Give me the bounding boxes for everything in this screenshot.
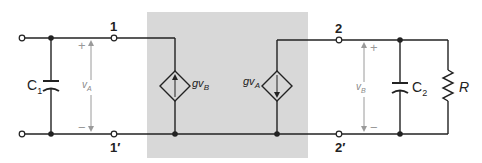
terminal-1-prime (111, 131, 117, 137)
terminal-1 (111, 35, 117, 41)
terminal-2 (336, 37, 342, 43)
resistor-zigzag (443, 70, 453, 101)
terminal-2-label: 2 (335, 22, 342, 35)
circuit-diagram (0, 0, 482, 163)
junction-c2-bottom (397, 131, 403, 137)
terminal-left-bottom (19, 131, 25, 137)
terminal-2-prime-label: 2′ (335, 141, 345, 154)
junction-c1-top (48, 35, 54, 41)
terminal-left-top (19, 35, 25, 41)
terminal-1-label: 1 (110, 20, 117, 33)
junction-left-source-bottom (172, 131, 178, 137)
va-label: vA (82, 80, 92, 92)
source-right-label: gvA (243, 76, 260, 90)
two-port-network-box (147, 12, 308, 158)
resistor-label: R (459, 80, 469, 94)
terminal-1-prime-label: 1′ (110, 141, 120, 154)
c1-label: C1 (27, 78, 42, 96)
junction-c1-bottom (48, 131, 54, 137)
terminal-2-prime (336, 131, 342, 137)
vb-label: vB (356, 82, 366, 94)
source-left-label: gvB (192, 78, 209, 92)
junction-right-source-bottom (274, 131, 280, 137)
vb-minus-sign: − (370, 121, 378, 134)
va-minus-sign: − (78, 121, 86, 134)
vb-plus-sign: + (370, 41, 378, 54)
junction-c2-top (397, 37, 403, 43)
c2-label: C2 (412, 80, 427, 98)
va-plus-sign: + (78, 39, 86, 52)
